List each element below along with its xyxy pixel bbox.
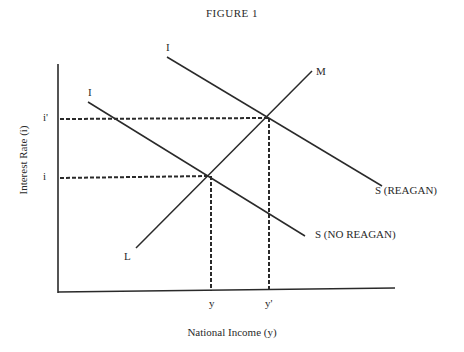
is-reagan-top-label: I bbox=[166, 41, 170, 53]
is-reagan-curve-label: S (REAGAN) bbox=[375, 184, 437, 196]
is-no-reagan-curve-label: S (NO REAGAN) bbox=[315, 228, 396, 240]
is-lm-diagram bbox=[0, 0, 464, 352]
lm-curve bbox=[136, 71, 312, 248]
y-axis-title: Interest Rate (i) bbox=[17, 125, 29, 194]
i-guide bbox=[60, 176, 209, 178]
x-axis-title: National Income (y) bbox=[0, 326, 464, 338]
i-prime-tick: i' bbox=[43, 111, 48, 123]
is-no-reagan-top-label: I bbox=[88, 86, 92, 98]
i-tick: i bbox=[43, 170, 46, 182]
is-reagan-curve bbox=[167, 57, 382, 186]
is-no-reagan-curve bbox=[88, 102, 305, 236]
y-prime-tick: y' bbox=[265, 297, 272, 309]
x-axis bbox=[58, 288, 395, 292]
lm-top-label: M bbox=[316, 65, 326, 77]
y-tick: y bbox=[209, 297, 215, 309]
lm-bottom-label: L bbox=[124, 250, 131, 262]
i-prime-guide bbox=[60, 118, 268, 119]
